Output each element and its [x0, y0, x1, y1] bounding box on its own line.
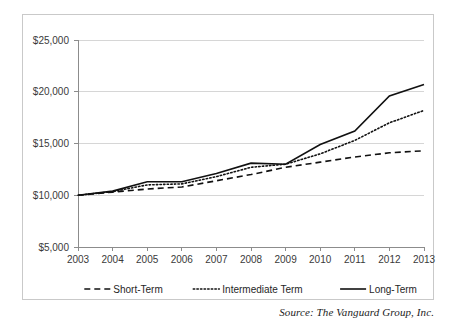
chart-legend: Short-TermIntermediate TermLong-Term: [84, 284, 417, 295]
y-tick-label: $10,000: [33, 190, 70, 201]
chart-figure: $5,000$10,000$15,000$20,000$25,000 20032…: [0, 0, 454, 331]
legend-item: Short-Term: [84, 284, 162, 295]
x-tick-label: 2003: [67, 254, 90, 265]
y-tick-label: $5,000: [38, 242, 69, 253]
x-tick-label: 2007: [205, 254, 228, 265]
y-tick-label: $25,000: [33, 35, 70, 46]
y-tick-label: $15,000: [33, 138, 70, 149]
data-series-group: [78, 85, 424, 196]
series-line-intermediate-term: [78, 110, 424, 195]
legend-item: Intermediate Term: [193, 284, 302, 295]
axes-group: [74, 40, 424, 251]
x-axis-tick-labels: 2003200420052006200720082009201020112012…: [67, 254, 436, 265]
x-tick-label: 2010: [309, 254, 332, 265]
x-tick-label: 2008: [240, 254, 263, 265]
x-tick-label: 2004: [101, 254, 124, 265]
legend-label: Intermediate Term: [222, 284, 302, 295]
gridlines-group: [78, 40, 424, 247]
series-line-long-term: [78, 85, 424, 196]
legend-item: Long-Term: [340, 284, 417, 295]
legend-label: Short-Term: [113, 284, 162, 295]
x-tick-label: 2011: [344, 254, 366, 265]
line-chart: $5,000$10,000$15,000$20,000$25,000 20032…: [0, 0, 454, 331]
x-tick-label: 2005: [136, 254, 159, 265]
x-tick-label: 2006: [171, 254, 194, 265]
y-tick-label: $20,000: [33, 86, 70, 97]
x-tick-label: 2013: [413, 254, 436, 265]
legend-label: Long-Term: [369, 284, 417, 295]
x-tick-label: 2009: [274, 254, 297, 265]
y-axis-tick-labels: $5,000$10,000$15,000$20,000$25,000: [33, 35, 70, 253]
x-tick-label: 2012: [378, 254, 401, 265]
source-note: Source: The Vanguard Group, Inc.: [0, 306, 434, 318]
